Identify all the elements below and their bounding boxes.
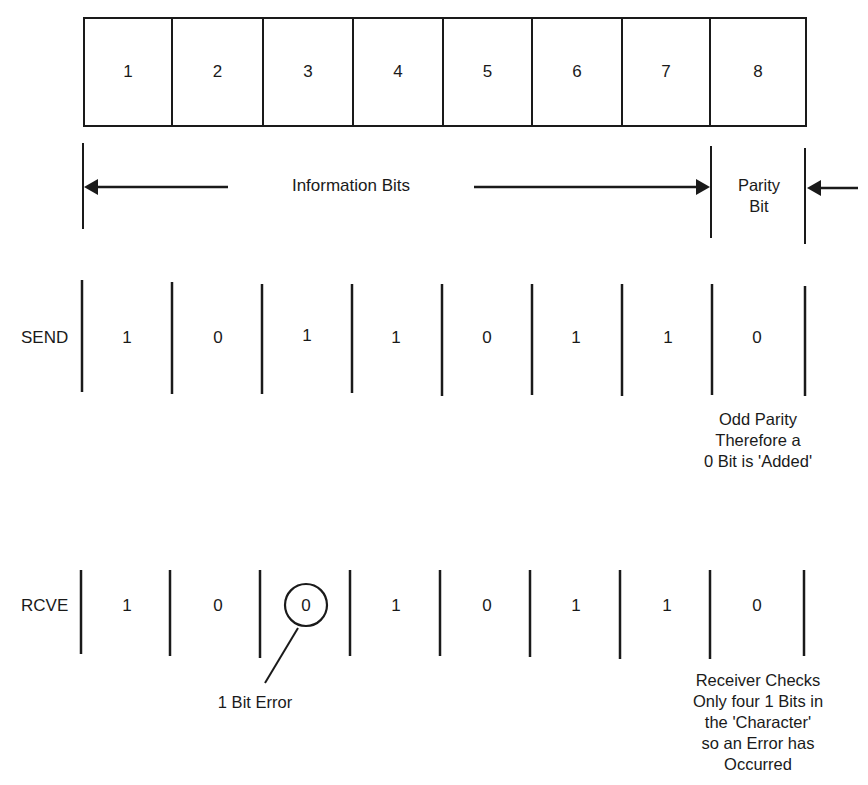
send-bit-7: 1 (648, 328, 688, 348)
receive-bit-4: 1 (376, 596, 416, 616)
receive-bit-8: 0 (737, 596, 777, 616)
receive-bit-7: 1 (647, 596, 687, 616)
error-label: 1 Bit Error (180, 693, 330, 712)
parity-arrow-icon (807, 180, 821, 196)
receive-bit-1: 1 (107, 596, 147, 616)
arrow-right-icon (696, 179, 710, 195)
arrow-left-icon (84, 179, 98, 195)
receive-check-note: Receiver Checks Only four 1 Bits in the … (676, 670, 840, 775)
parity-bit-label: Parity Bit (716, 175, 802, 217)
receive-bit-2: 0 (198, 596, 238, 616)
send-bit-2: 0 (198, 328, 238, 348)
send-bit-4: 1 (376, 328, 416, 348)
diagram-lines (0, 0, 868, 785)
send-row-label: SEND (21, 328, 68, 348)
receive-bit-3-error: 0 (286, 596, 326, 616)
receive-bit-5: 0 (467, 596, 507, 616)
information-bits-label: Information Bits (234, 176, 468, 196)
send-bit-8: 0 (737, 328, 777, 348)
send-parity-note: Odd Parity Therefore a 0 Bit is 'Added' (688, 409, 828, 472)
send-bit-3: 1 (287, 326, 327, 346)
send-bit-1: 1 (107, 328, 147, 348)
send-bit-6: 1 (556, 328, 596, 348)
receive-row-label: RCVE (21, 596, 68, 616)
receive-bit-6: 1 (556, 596, 596, 616)
send-bit-5: 0 (467, 328, 507, 348)
